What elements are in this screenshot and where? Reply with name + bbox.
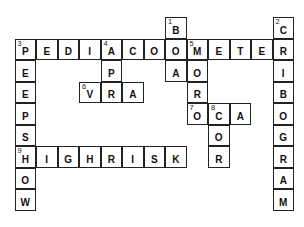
cell-letter: O <box>16 175 36 186</box>
crossword-cell[interactable]: A <box>122 82 144 104</box>
cell-letter: O <box>145 46 165 57</box>
crossword-cell[interactable]: E <box>36 39 58 61</box>
cell-letter: V <box>80 89 100 100</box>
cell-letter: C <box>274 25 294 36</box>
cell-letter: M <box>274 197 294 208</box>
crossword-grid: 1BOA2CRIBOGRAM3PEDI4ACO5METEEEPS9HOWPROR… <box>0 0 304 227</box>
crossword-cell[interactable]: M <box>273 189 295 211</box>
cell-letter: G <box>59 154 79 165</box>
cell-letter: S <box>145 154 165 165</box>
cell-letter: T <box>231 46 251 57</box>
crossword-cell[interactable]: R <box>187 82 209 104</box>
cell-letter: E <box>16 89 36 100</box>
crossword-cell[interactable]: D <box>58 39 80 61</box>
cell-letter: P <box>16 111 36 122</box>
cell-letter: P <box>16 46 36 57</box>
crossword-cell[interactable]: O <box>208 125 230 147</box>
crossword-cell[interactable]: O <box>144 39 166 61</box>
cell-letter: E <box>16 68 36 79</box>
crossword-cell[interactable]: K <box>165 146 187 168</box>
cell-letter: I <box>80 46 100 57</box>
cell-letter: G <box>274 132 294 143</box>
crossword-cell[interactable]: 7O <box>187 103 209 125</box>
crossword-cell[interactable]: H <box>79 146 101 168</box>
cell-letter: S <box>16 132 36 143</box>
cell-letter: W <box>16 197 36 208</box>
cell-letter: E <box>209 46 229 57</box>
cell-letter: A <box>123 89 143 100</box>
cell-letter: I <box>274 68 294 79</box>
crossword-cell[interactable]: 1B <box>165 17 187 39</box>
cell-letter: R <box>209 154 229 165</box>
crossword-cell[interactable]: I <box>273 60 295 82</box>
cell-letter: B <box>166 25 186 36</box>
crossword-cell[interactable]: E <box>15 60 37 82</box>
cell-letter: R <box>274 46 294 57</box>
crossword-cell[interactable]: O <box>273 103 295 125</box>
crossword-cell[interactable]: 5M <box>187 39 209 61</box>
crossword-cell[interactable]: R <box>208 146 230 168</box>
crossword-cell[interactable]: 4A <box>101 39 123 61</box>
crossword-cell[interactable]: B <box>273 82 295 104</box>
crossword-cell[interactable]: O <box>15 168 37 190</box>
cell-letter: D <box>59 46 79 57</box>
cell-letter: H <box>16 154 36 165</box>
cell-letter: O <box>188 111 208 122</box>
cell-letter: M <box>188 46 208 57</box>
cell-letter: E <box>37 46 57 57</box>
cell-letter: O <box>209 132 229 143</box>
crossword-cell[interactable]: O <box>165 39 187 61</box>
crossword-cell[interactable]: S <box>15 125 37 147</box>
crossword-cell[interactable]: P <box>15 103 37 125</box>
crossword-cell[interactable]: E <box>208 39 230 61</box>
cell-letter: I <box>123 154 143 165</box>
cell-letter: R <box>102 154 122 165</box>
cell-letter: A <box>274 175 294 186</box>
cell-letter: C <box>123 46 143 57</box>
crossword-cell[interactable]: A <box>273 168 295 190</box>
cell-letter: O <box>188 68 208 79</box>
crossword-cell[interactable]: A <box>230 103 252 125</box>
crossword-cell[interactable]: 6V <box>79 82 101 104</box>
crossword-cell[interactable]: O <box>187 60 209 82</box>
crossword-cell[interactable]: C <box>122 39 144 61</box>
crossword-cell[interactable]: R <box>273 39 295 61</box>
crossword-cell[interactable]: I <box>122 146 144 168</box>
cell-letter: A <box>166 68 186 79</box>
crossword-cell[interactable]: R <box>101 82 123 104</box>
cell-letter: I <box>37 154 57 165</box>
crossword-cell[interactable]: P <box>101 60 123 82</box>
cell-letter: B <box>274 89 294 100</box>
crossword-cell[interactable]: R <box>101 146 123 168</box>
cell-letter: O <box>274 111 294 122</box>
cell-letter: A <box>231 111 251 122</box>
cell-letter: E <box>252 46 272 57</box>
crossword-cell[interactable]: T <box>230 39 252 61</box>
crossword-cell[interactable]: I <box>36 146 58 168</box>
crossword-cell[interactable]: S <box>144 146 166 168</box>
cell-letter: P <box>102 68 122 79</box>
cell-letter: A <box>102 46 122 57</box>
crossword-cell[interactable]: E <box>15 82 37 104</box>
cell-letter: R <box>188 89 208 100</box>
crossword-cell[interactable]: R <box>273 146 295 168</box>
crossword-cell[interactable]: G <box>58 146 80 168</box>
crossword-cell[interactable]: 9H <box>15 146 37 168</box>
crossword-cell[interactable]: W <box>15 189 37 211</box>
cell-letter: C <box>209 111 229 122</box>
cell-letter: O <box>166 46 186 57</box>
cell-letter: K <box>166 154 186 165</box>
crossword-cell[interactable]: 3P <box>15 39 37 61</box>
crossword-cell[interactable]: 2C <box>273 17 295 39</box>
crossword-cell[interactable]: 8C <box>208 103 230 125</box>
crossword-cell[interactable]: G <box>273 125 295 147</box>
cell-letter: R <box>102 89 122 100</box>
crossword-cell[interactable]: E <box>251 39 273 61</box>
cell-letter: R <box>274 154 294 165</box>
crossword-cell[interactable]: I <box>79 39 101 61</box>
crossword-cell[interactable]: A <box>165 60 187 82</box>
cell-letter: H <box>80 154 100 165</box>
